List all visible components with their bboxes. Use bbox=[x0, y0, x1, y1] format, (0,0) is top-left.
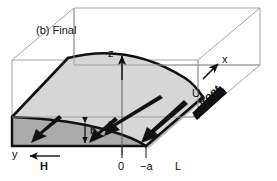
tick-label-origin: 0 bbox=[118, 161, 124, 172]
x-axis-arrow bbox=[203, 64, 218, 79]
figure-caption: (b) Final bbox=[36, 25, 76, 36]
tick-label-H: H bbox=[40, 161, 48, 172]
box-depth-edge-tr bbox=[198, 8, 260, 60]
axis-label-z: z bbox=[108, 48, 114, 59]
baseline-ticks bbox=[122, 146, 146, 158]
figure-container: (b) Final z x y h H 0 −a L Ug front bbox=[0, 0, 277, 181]
axis-label-y: y bbox=[12, 149, 18, 160]
tick-label-minus-a: −a bbox=[140, 161, 153, 172]
axis-label-x: x bbox=[222, 54, 228, 65]
tick-label-L: L bbox=[175, 161, 181, 172]
depth-label-h: h bbox=[90, 126, 96, 136]
